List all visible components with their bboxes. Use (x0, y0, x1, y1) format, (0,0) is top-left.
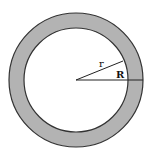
inner-radius-label: r (99, 58, 104, 69)
outer-radius-label: R (116, 69, 125, 80)
annulus-diagram: r R (0, 0, 149, 162)
